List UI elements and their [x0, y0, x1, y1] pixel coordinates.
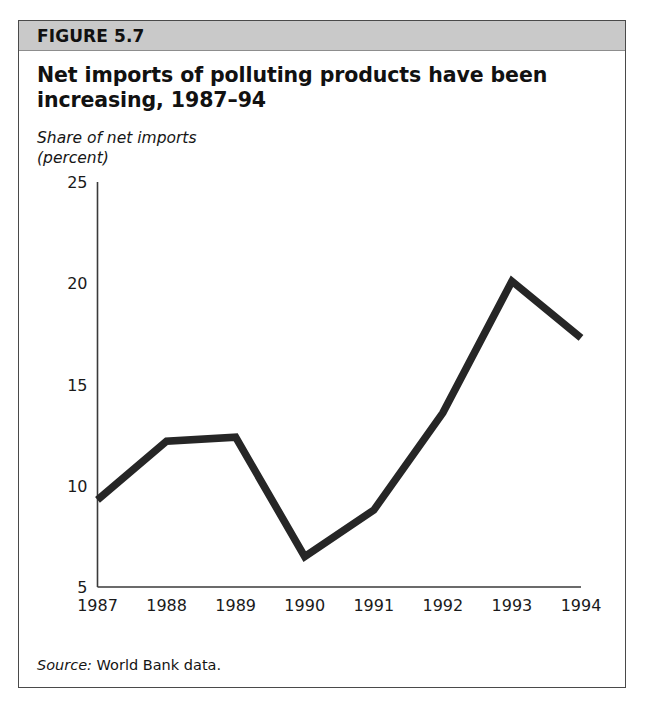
- x-tick-label: 1989: [215, 596, 256, 615]
- line-chart-svg: 510152025 198719881989199019911992199319…: [19, 168, 625, 620]
- y-axis-tick-labels: 510152025: [67, 173, 87, 597]
- source-label: Source:: [37, 657, 92, 673]
- x-tick-label: 1987: [77, 596, 118, 615]
- figure-header-bar: FIGURE 5.7: [19, 21, 625, 51]
- figure-title: Net imports of polluting products have b…: [19, 51, 625, 114]
- y-tick-label: 20: [67, 275, 87, 294]
- figure-panel: FIGURE 5.7 Net imports of polluting prod…: [18, 20, 626, 688]
- figure-number-label: FIGURE 5.7: [37, 26, 144, 46]
- x-axis-tick-labels: 19871988198919901991199219931994: [77, 596, 601, 615]
- x-tick-label: 1993: [492, 596, 533, 615]
- source-value: World Bank data.: [92, 657, 221, 673]
- x-tick-label: 1992: [422, 596, 463, 615]
- x-tick-label: 1991: [353, 596, 394, 615]
- data-series-line: [98, 282, 582, 557]
- y-axis-caption-line1: Share of net imports: [37, 129, 625, 149]
- y-tick-label: 15: [67, 376, 87, 395]
- x-tick-label: 1994: [561, 596, 602, 615]
- chart-plot-area: 510152025 198719881989199019911992199319…: [19, 168, 625, 620]
- y-axis-caption-line2: (percent): [37, 149, 625, 169]
- x-tick-label: 1990: [284, 596, 325, 615]
- y-tick-label: 5: [77, 578, 87, 597]
- source-note: Source: World Bank data.: [37, 657, 221, 673]
- x-tick-label: 1988: [146, 596, 187, 615]
- y-axis-caption: Share of net imports (percent): [19, 114, 625, 169]
- y-tick-label: 10: [67, 477, 87, 496]
- y-tick-label: 25: [67, 173, 87, 192]
